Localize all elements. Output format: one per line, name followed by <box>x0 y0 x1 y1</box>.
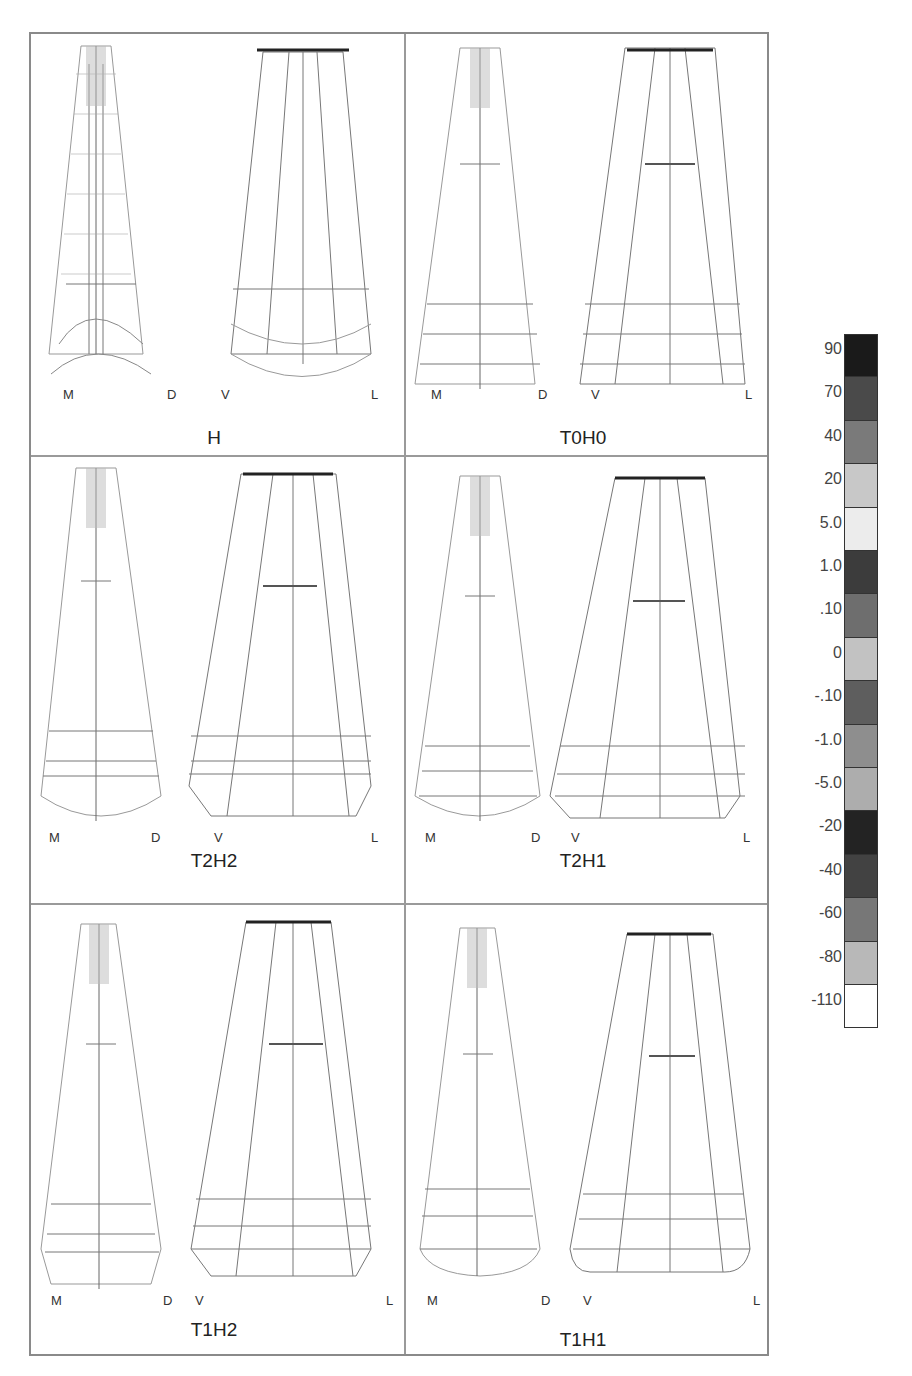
colorbar-band <box>844 855 878 898</box>
colorbar-band <box>844 725 878 768</box>
label-medial: M <box>63 387 74 402</box>
colorbar-band <box>844 985 878 1028</box>
panel-T2H2: M D V L T2H2 <box>31 456 404 903</box>
colorbar-tick-label: 5.0 <box>782 514 842 532</box>
label-medial: M <box>425 830 436 845</box>
label-ventral: V <box>214 830 223 845</box>
panel-title: T2H1 <box>483 850 683 872</box>
label-lateral: L <box>745 387 752 402</box>
colorbar-tick-label: 20 <box>782 470 842 488</box>
colorbar-band <box>844 334 878 377</box>
label-ventral: V <box>195 1293 204 1308</box>
label-lateral: L <box>743 830 750 845</box>
colorbar-tick-label: 40 <box>782 427 842 445</box>
label-medial: M <box>431 387 442 402</box>
label-distal: D <box>167 387 176 402</box>
label-lateral: L <box>386 1293 393 1308</box>
panel-T2H1: M D V L T2H1 <box>405 456 769 903</box>
colorbar-band <box>844 421 878 464</box>
colorbar-band <box>844 681 878 724</box>
label-distal: D <box>538 387 547 402</box>
panel-T1H1: M D V L T1H1 <box>405 904 769 1356</box>
colorbar-tick-label: 0 <box>782 644 842 662</box>
colorbar-band <box>844 594 878 637</box>
colorbar-tick-label: -110 <box>782 991 842 1009</box>
colorbar-band <box>844 811 878 854</box>
model-drawing-T1H2 <box>31 904 404 1356</box>
label-distal: D <box>531 830 540 845</box>
model-drawing-T2H1 <box>405 456 769 903</box>
panel-title: T1H1 <box>483 1329 683 1351</box>
colorbar-tick-label: -80 <box>782 948 842 966</box>
colorbar-band <box>844 464 878 507</box>
panel-title: T2H2 <box>114 850 314 872</box>
figure-grid: M D V L H M D V L T0H0 <box>29 32 769 1356</box>
colorbar-band <box>844 377 878 420</box>
label-medial: M <box>49 830 60 845</box>
colorbar-tick-label: -5.0 <box>782 774 842 792</box>
colorbar-tick-label: -.10 <box>782 687 842 705</box>
panel-title: T0H0 <box>483 427 683 449</box>
label-ventral: V <box>571 830 580 845</box>
colorbar-tick-label: -20 <box>782 817 842 835</box>
label-ventral: V <box>583 1293 592 1308</box>
label-medial: M <box>427 1293 438 1308</box>
colorbar-tick-label: 1.0 <box>782 557 842 575</box>
label-ventral: V <box>221 387 230 402</box>
label-ventral: V <box>591 387 600 402</box>
colorbar-band <box>844 638 878 681</box>
label-lateral: L <box>753 1293 760 1308</box>
label-medial: M <box>51 1293 62 1308</box>
colorbar-tick-label: -1.0 <box>782 731 842 749</box>
panel-title: T1H2 <box>114 1319 314 1341</box>
colorbar-tick-label: -40 <box>782 861 842 879</box>
label-lateral: L <box>371 387 378 402</box>
colorbar-band <box>844 508 878 551</box>
label-distal: D <box>163 1293 172 1308</box>
panel-title: H <box>114 427 314 449</box>
colorbar-band <box>844 768 878 811</box>
panel-T0H0: M D V L T0H0 <box>405 34 769 455</box>
colorbar-tick-label: -60 <box>782 904 842 922</box>
label-lateral: L <box>371 830 378 845</box>
model-drawing-T1H1 <box>405 904 769 1356</box>
colorbar-tick-label: .10 <box>782 600 842 618</box>
colorbar-band <box>844 942 878 985</box>
model-drawing-H <box>31 34 404 455</box>
label-distal: D <box>541 1293 550 1308</box>
label-distal: D <box>151 830 160 845</box>
colorbar-band <box>844 898 878 941</box>
colorbar-tick-label: 70 <box>782 383 842 401</box>
panel-H: M D V L H <box>31 34 404 455</box>
model-drawing-T0H0 <box>405 34 769 455</box>
colorbar-tick-label: 90 <box>782 340 842 358</box>
colorbar-band <box>844 551 878 594</box>
panel-T1H2: M D V L T1H2 <box>31 904 404 1356</box>
